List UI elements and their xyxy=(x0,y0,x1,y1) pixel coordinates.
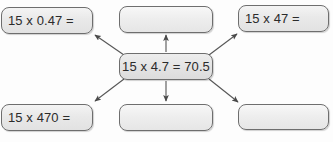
node-center[interactable]: 15 x 4.7 = 70.5 xyxy=(119,53,213,80)
node-top-right-label: 15 x 47 = xyxy=(245,11,300,26)
diagram-canvas: 15 x 0.47 = 15 x 47 = 15 x 4.7 = 70.5 15… xyxy=(0,0,333,142)
node-top-left[interactable]: 15 x 0.47 = xyxy=(1,7,93,34)
node-bottom-right[interactable] xyxy=(238,104,329,130)
node-bottom-left[interactable]: 15 x 470 = xyxy=(1,104,93,131)
node-bottom-middle[interactable] xyxy=(119,104,213,131)
arrow-to-top-left xyxy=(95,35,124,55)
node-top-left-label: 15 x 0.47 = xyxy=(8,13,74,28)
node-top-middle[interactable] xyxy=(119,6,213,33)
arrow-to-bottom-left xyxy=(95,79,124,101)
node-top-right[interactable]: 15 x 47 = xyxy=(238,5,329,32)
node-bottom-left-label: 15 x 470 = xyxy=(8,110,70,125)
arrow-to-bottom-right xyxy=(209,79,238,102)
node-center-label: 15 x 4.7 = 70.5 xyxy=(122,59,210,74)
arrow-to-top-right xyxy=(209,34,237,55)
